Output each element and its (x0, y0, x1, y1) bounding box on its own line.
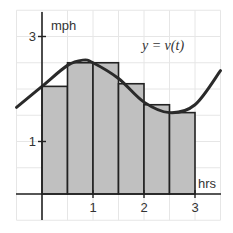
bar-3 (93, 63, 119, 194)
riemann-bars (42, 63, 195, 194)
y-tick-1: 1 (29, 134, 36, 149)
y-axis-label: mph (51, 18, 76, 33)
chart: 1 2 3 1 3 mph hrs y = v(t) (0, 0, 233, 233)
bar-1 (42, 86, 68, 194)
x-axis-label: hrs (198, 176, 217, 191)
curve-label: y = v(t) (140, 38, 184, 54)
x-tick-3: 3 (191, 200, 198, 215)
y-tick-3: 3 (29, 29, 36, 44)
bar-6 (170, 113, 196, 194)
bar-2 (68, 63, 94, 194)
x-tick-2: 2 (140, 200, 147, 215)
x-tick-1: 1 (89, 200, 96, 215)
bar-5 (144, 105, 170, 194)
